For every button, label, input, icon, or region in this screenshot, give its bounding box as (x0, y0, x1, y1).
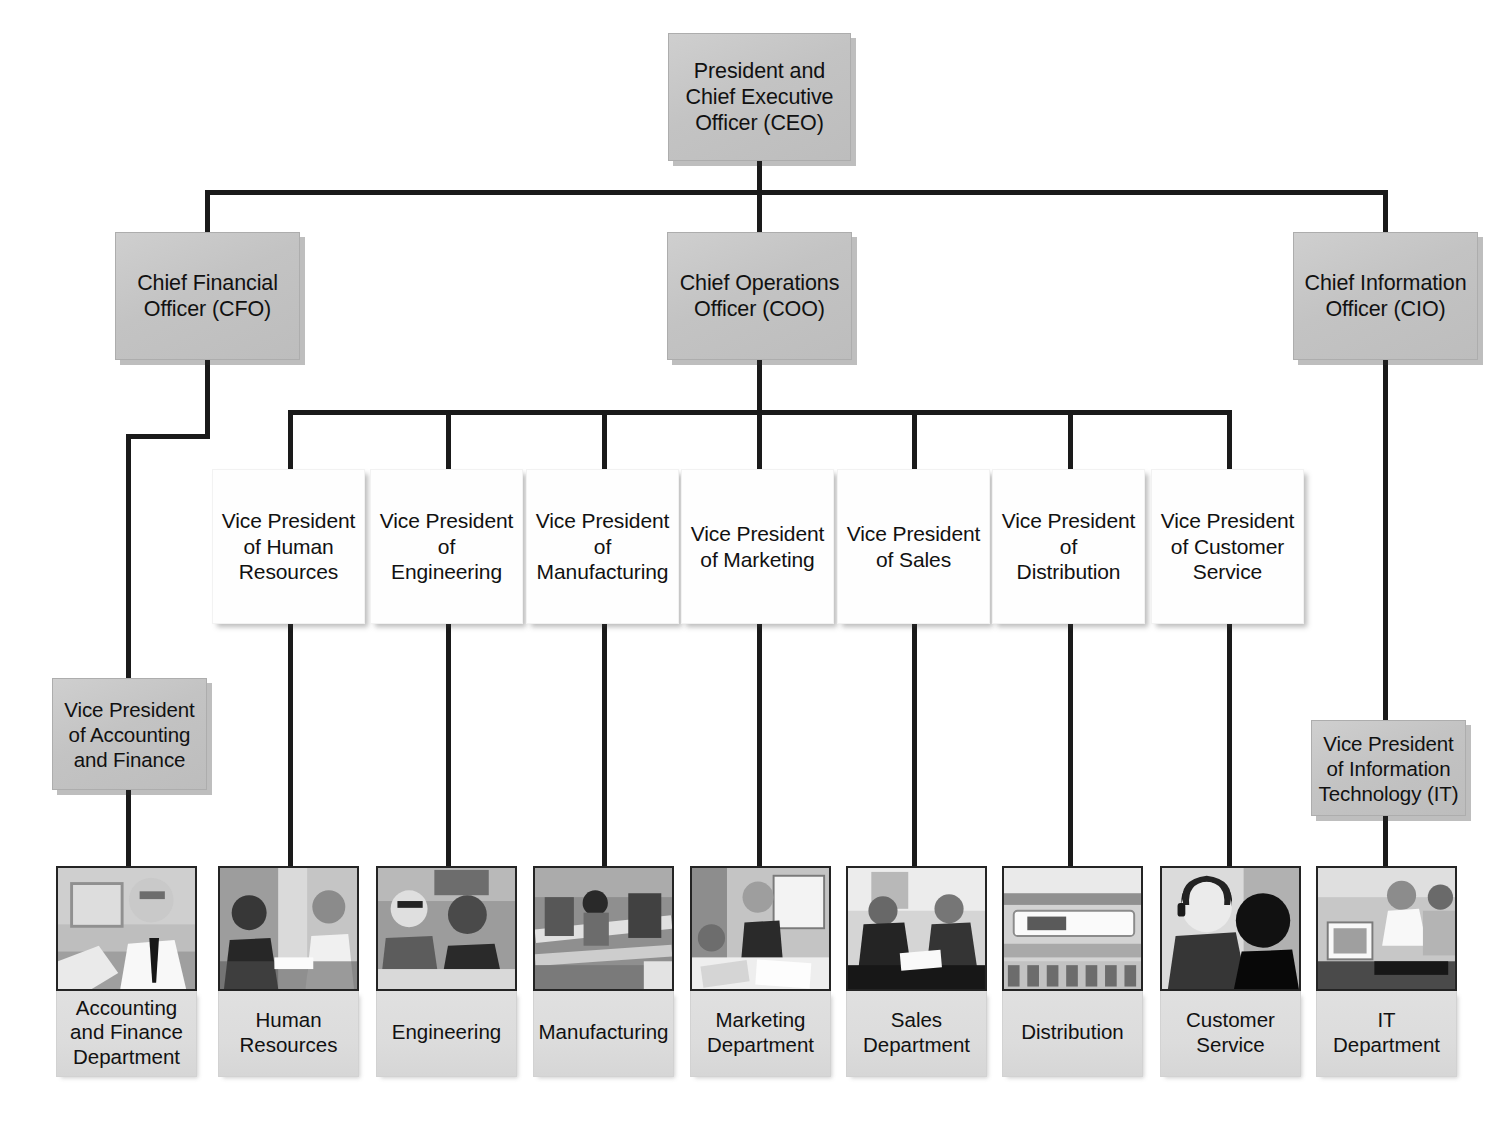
connector-vp-manufacturing-to-department (602, 624, 607, 867)
connector-vp-sales-to-department (912, 624, 917, 867)
connector-drop-vp-human-resources (288, 410, 293, 472)
sales-handshake-photo (846, 866, 987, 991)
label-line2: and Finance (70, 1020, 183, 1043)
engineers-at-desk-photo-graphic (378, 868, 515, 989)
interview-meeting-photo (218, 866, 359, 991)
connector-vp-it-to-department (1383, 815, 1388, 867)
conveyor-belt-photo (1002, 866, 1143, 991)
node-vp-marketing-line1: Vice President (691, 522, 825, 545)
engineers-at-desk-photo (376, 866, 517, 991)
card-customer-service-department[interactable]: Customer Service (1160, 866, 1301, 1077)
node-vp-sales[interactable]: Vice President of Sales (837, 469, 990, 624)
node-vp-it-line3: Technology (IT) (1319, 782, 1459, 805)
label-line2: Department (707, 1033, 814, 1056)
card-label-it: IT Department (1316, 991, 1457, 1077)
node-vp-accounting-line3: and Finance (74, 748, 186, 771)
connector-vp-human-resources-to-department (288, 624, 293, 867)
node-cio-line1: Chief Information (1304, 271, 1466, 295)
label-line1: Manufacturing (539, 1020, 669, 1045)
connector-vp-engineering-to-department (446, 624, 451, 867)
marketing-presentation-photo-graphic (692, 868, 829, 989)
headset-agent-photo (1160, 866, 1301, 991)
connector-cio-to-vp-it (1383, 358, 1388, 725)
node-vp-information-technology[interactable]: Vice President of Information Technology… (1311, 720, 1466, 816)
node-vp-distribution[interactable]: Vice President of Distribution (992, 469, 1145, 624)
node-cfo[interactable]: Chief Financial Officer (CFO) (115, 232, 300, 360)
node-vp-engineering-line3: Engineering (391, 560, 502, 583)
label-line1: IT (1377, 1008, 1395, 1031)
node-vp-distribution-line1: Vice President (1002, 509, 1136, 532)
card-distribution-department[interactable]: Distribution (1002, 866, 1143, 1077)
factory-floor-photo-graphic (535, 868, 672, 989)
node-cfo-line2: Officer (CFO) (144, 297, 271, 321)
card-label-human-resources: Human Resources (218, 991, 359, 1077)
card-manufacturing-department[interactable]: Manufacturing (533, 866, 674, 1077)
label-line1: Human (255, 1008, 321, 1031)
node-ceo-line1: President and (694, 59, 825, 83)
connector-drop-vp-engineering (446, 410, 451, 472)
connector-drop-cio (1383, 190, 1388, 235)
card-accounting-and-finance-department[interactable]: Accounting and Finance Department (56, 866, 197, 1077)
node-vp-it-line2: of Information (1327, 757, 1451, 780)
label-line1: Sales (891, 1008, 942, 1031)
card-engineering-department[interactable]: Engineering (376, 866, 517, 1077)
connector-vp-accounting-to-department (126, 789, 131, 867)
node-vp-engineering[interactable]: Vice President of Engineering (370, 469, 523, 624)
card-sales-department[interactable]: Sales Department (846, 866, 987, 1077)
node-vp-customer-service-line2: of Customer (1171, 535, 1284, 558)
node-vp-customer-service-line1: Vice President (1161, 509, 1295, 532)
node-coo[interactable]: Chief Operations Officer (COO) (667, 232, 852, 360)
label-line2: Department (863, 1033, 970, 1056)
node-vp-human-resources-line2: of Human (243, 535, 333, 558)
org-chart-canvas: President and Chief Executive Officer (C… (0, 0, 1512, 1143)
card-human-resources-department[interactable]: Human Resources (218, 866, 359, 1077)
label-line3: Department (73, 1045, 180, 1068)
connector-drop-cfo (205, 190, 210, 235)
connector-drop-vp-marketing (757, 410, 762, 472)
marketing-presentation-photo (690, 866, 831, 991)
connector-exec-bus (205, 190, 1388, 195)
node-vp-accounting-line2: of Accounting (69, 723, 191, 746)
label-line1: Customer (1186, 1008, 1275, 1031)
card-label-marketing: Marketing Department (690, 991, 831, 1077)
node-vp-distribution-line2: of (1060, 535, 1077, 558)
sales-handshake-photo-graphic (848, 868, 985, 989)
node-vp-marketing[interactable]: Vice President of Marketing (681, 469, 834, 624)
card-label-distribution: Distribution (1002, 991, 1143, 1077)
node-coo-line2: Officer (COO) (694, 297, 825, 321)
factory-floor-photo (533, 866, 674, 991)
node-vp-it-line1: Vice President (1323, 732, 1453, 755)
connector-cfo-stem (205, 358, 210, 438)
office-worker-photo (56, 866, 197, 991)
card-label-sales: Sales Department (846, 991, 987, 1077)
connector-vp-distribution-to-department (1068, 624, 1073, 867)
label-line2: Department (1333, 1033, 1440, 1056)
connector-cfo-to-vp-accounting (126, 434, 131, 683)
headset-agent-photo-graphic (1162, 868, 1299, 989)
node-vp-customer-service-line3: Service (1193, 560, 1262, 583)
node-ceo-line2: Chief Executive (686, 85, 834, 109)
node-vp-manufacturing-line3: Manufacturing (537, 560, 669, 583)
it-workstation-photo-graphic (1318, 868, 1455, 989)
interview-meeting-photo-graphic (220, 868, 357, 989)
node-vp-accounting-and-finance[interactable]: Vice President of Accounting and Finance (52, 678, 207, 790)
connector-drop-vp-manufacturing (602, 410, 607, 472)
connector-cfo-jog (126, 434, 210, 439)
card-it-department[interactable]: IT Department (1316, 866, 1457, 1077)
card-marketing-department[interactable]: Marketing Department (690, 866, 831, 1077)
node-vp-human-resources-line1: Vice President (222, 509, 356, 532)
node-vp-human-resources[interactable]: Vice President of Human Resources (212, 469, 365, 624)
node-ceo[interactable]: President and Chief Executive Officer (C… (668, 33, 851, 161)
node-vp-engineering-line1: Vice President (380, 509, 514, 532)
node-vp-customer-service[interactable]: Vice President of Customer Service (1151, 469, 1304, 624)
card-label-customer-service: Customer Service (1160, 991, 1301, 1077)
node-cio[interactable]: Chief Information Officer (CIO) (1293, 232, 1478, 360)
node-vp-manufacturing[interactable]: Vice President of Manufacturing (526, 469, 679, 624)
label-line1: Accounting (76, 996, 177, 1019)
card-label-accounting-and-finance: Accounting and Finance Department (56, 991, 197, 1077)
node-ceo-line3: Officer (CEO) (695, 111, 824, 135)
card-label-manufacturing: Manufacturing (533, 991, 674, 1077)
node-vp-manufacturing-line1: Vice President (536, 509, 670, 532)
node-vp-engineering-line2: of (438, 535, 455, 558)
node-vp-sales-line1: Vice President (847, 522, 981, 545)
